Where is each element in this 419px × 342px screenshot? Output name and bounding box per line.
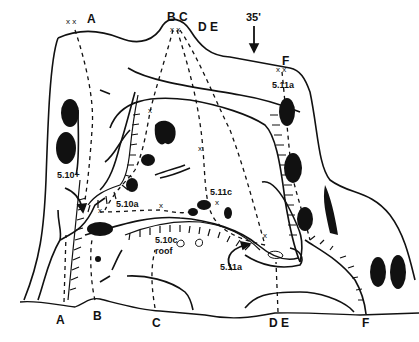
rock-left-edge (24, 38, 58, 300)
bottom-label-a: A (56, 314, 65, 326)
roof-hold-3 (268, 251, 283, 258)
ledge-line-5 (160, 168, 190, 178)
rock-outline (58, 19, 415, 280)
grade-c-note: roof (155, 247, 173, 256)
ground-line (20, 299, 419, 318)
right-base-hump (245, 292, 354, 312)
grade-b: 5.10a (116, 200, 139, 209)
anchor-de-low: x (263, 232, 267, 240)
route-b-branch (100, 210, 195, 213)
grade-d: 5.11c (210, 188, 232, 197)
base-roof-line (127, 276, 193, 310)
c-small-curve (112, 250, 122, 270)
bottom-label-de: D E (269, 317, 289, 329)
route-lines (64, 30, 310, 312)
top-label-a: A (87, 13, 96, 25)
ledge-line-3 (100, 92, 135, 190)
anchor-c-mid: x (198, 145, 202, 153)
grade-e: 5.11a (220, 263, 242, 272)
height-arrow-head (250, 44, 258, 52)
bottom-label-b: B (93, 310, 102, 322)
route-b-line (105, 30, 173, 210)
top-label-de: D E (198, 21, 218, 33)
top-label-f: F (282, 55, 289, 67)
bottom-label-f: F (362, 317, 369, 329)
roof-hold-2 (196, 239, 203, 246)
c-small-dash (100, 276, 110, 282)
grade-a: 5.10+ (57, 171, 80, 180)
grade-c: 5.10c (155, 236, 178, 245)
anchor-b-low: x (98, 207, 102, 215)
grade-f: 5.11a (272, 81, 294, 90)
route-de-lower (276, 262, 278, 312)
ledge-line-6 (155, 165, 185, 175)
top-label-bc: B C (167, 11, 188, 23)
base-left-bulge (38, 210, 61, 300)
route-a-lower (64, 235, 66, 302)
anchor-a: x x (66, 18, 76, 26)
anchor-bc: x x (170, 26, 180, 34)
bottom-label-c: C (152, 317, 161, 329)
anchor-b-mid: x (148, 107, 152, 115)
height-marker: 35' (246, 12, 261, 23)
route-b-lower (91, 240, 95, 300)
roof-hold-1 (177, 240, 184, 247)
ledge-line-8 (100, 90, 110, 94)
anchor-d-low: x (215, 199, 219, 207)
topo-diagram: x x x x x x x x x x x x A B C D E 35' F … (0, 0, 419, 342)
anchor-c-low: x (159, 202, 163, 210)
